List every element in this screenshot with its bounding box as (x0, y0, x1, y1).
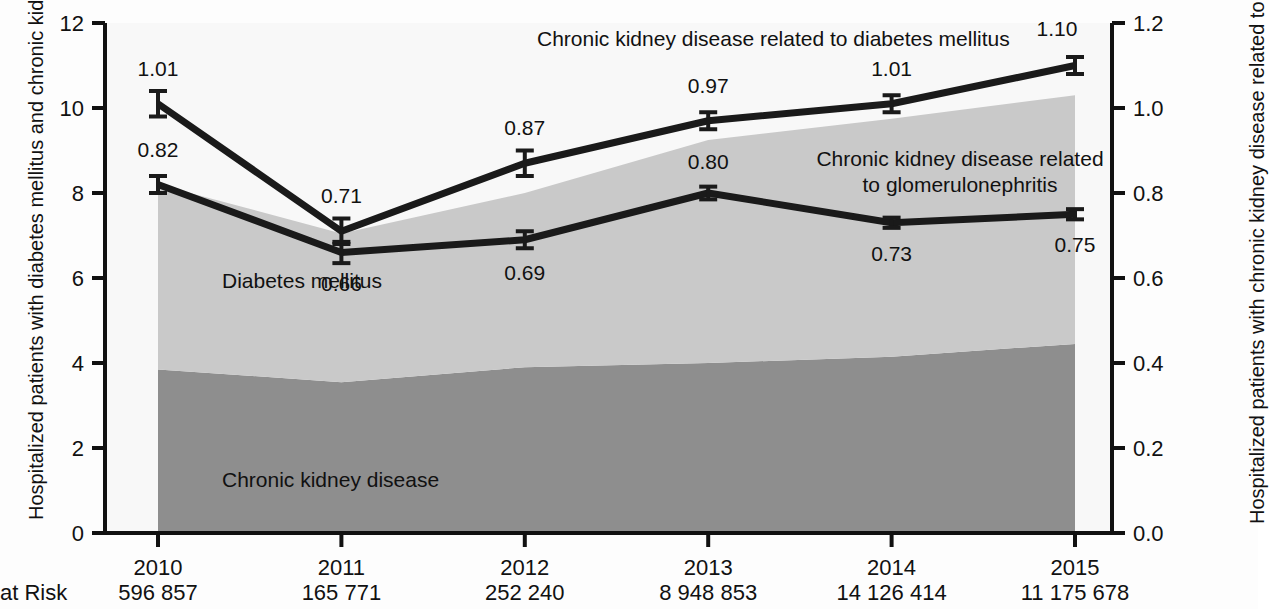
data-label-gn: 0.75 (1055, 233, 1096, 256)
at-risk-value: 165 771 (302, 580, 382, 605)
data-label-dm: 1.01 (871, 57, 912, 80)
x-tick-label: 2012 (500, 555, 549, 580)
y-right-tick-label: 0.4 (1133, 351, 1164, 376)
y-right-tick-label: 1.0 (1133, 96, 1164, 121)
data-label-gn: 0.80 (688, 150, 729, 173)
at-risk-value: 14 126 414 (837, 580, 947, 605)
x-tick-label: 2011 (318, 555, 365, 580)
data-label-gn: 0.69 (504, 261, 545, 284)
annotation-area-diabetes: Diabetes mellitus (222, 269, 382, 292)
data-label-dm: 0.97 (688, 74, 729, 97)
x-tick-label: 2010 (134, 555, 183, 580)
data-label-dm: 1.01 (138, 57, 179, 80)
y-right-tick-label: 0.0 (1133, 521, 1164, 546)
data-label-gn: 0.82 (138, 138, 179, 161)
annotation-line-gn: Chronic kidney disease related (816, 147, 1103, 170)
annotation-line-dm: Chronic kidney disease related to diabet… (537, 27, 1010, 50)
annotation-line-gn: to glomerulonephritis (863, 173, 1058, 196)
y-left-tick-label: 10 (60, 96, 84, 121)
x-tick-label: 2015 (1051, 555, 1100, 580)
y-left-tick-label: 6 (72, 266, 84, 291)
data-label-gn: 0.73 (871, 242, 912, 265)
y-left-tick-label: 2 (72, 436, 84, 461)
x-tick-label: 2014 (867, 555, 916, 580)
at-risk-label: at Risk (0, 580, 68, 605)
annotation-area-ckd: Chronic kidney disease (222, 468, 439, 491)
data-label-dm: 0.87 (504, 116, 545, 139)
x-tick-label: 2013 (684, 555, 733, 580)
data-label-dm: 0.71 (321, 184, 362, 207)
at-risk-value: 11 175 678 (1021, 580, 1129, 605)
y-right-tick-label: 0.2 (1133, 436, 1164, 461)
y-left-tick-label: 0 (72, 521, 84, 546)
at-risk-row: at Risk596 857165 771252 2408 948 85314 … (0, 580, 1129, 605)
y-right-tick-label: 0.6 (1133, 266, 1164, 291)
y-right-tick-label: 0.8 (1133, 181, 1164, 206)
at-risk-value: 596 857 (118, 580, 198, 605)
y-left-tick-label: 4 (72, 351, 84, 376)
at-risk-value: 252 240 (485, 580, 565, 605)
y-left-tick-label: 12 (60, 11, 84, 36)
y-right-tick-label: 1.2 (1133, 11, 1164, 36)
y-left-tick-label: 8 (72, 181, 84, 206)
data-label-dm: 1.10 (1037, 17, 1078, 40)
at-risk-value: 8 948 853 (659, 580, 757, 605)
